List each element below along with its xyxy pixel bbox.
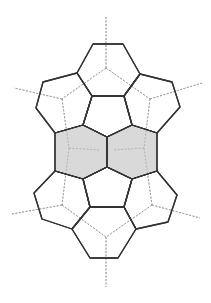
faces <box>12 17 202 287</box>
hidden-edge-overlay <box>106 205 152 237</box>
pent-lower-left <box>34 171 90 229</box>
pent-upper-right-outline <box>124 74 180 133</box>
fullerene-diagram <box>0 0 211 303</box>
pent-bottom <box>72 207 136 258</box>
hidden-edge-overlay <box>14 88 62 99</box>
hidden-edge-overlay <box>12 205 62 214</box>
hidden-edge-overlay <box>62 205 106 237</box>
pent-bottom-outline <box>72 207 136 258</box>
pent-upper-left-outline <box>36 73 92 133</box>
hidden-edge-overlay <box>106 68 150 99</box>
hidden-edge-overlay <box>152 205 200 218</box>
pent-lower-left-outline <box>34 171 90 229</box>
